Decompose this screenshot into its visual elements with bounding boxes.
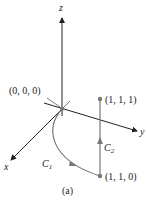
point-110 [98, 174, 102, 178]
curve-c2-label: C2 [104, 142, 115, 155]
x-axis-label: x [3, 161, 9, 172]
point-110-label: (1, 1, 0) [105, 171, 137, 183]
x-axis [11, 109, 62, 160]
point-origin-label: (0, 0, 0) [9, 85, 41, 97]
point-111-label: (1, 1, 1) [105, 94, 137, 106]
figure-caption: (a) [62, 185, 73, 197]
curve-c1-arrow-icon [69, 161, 77, 166]
y-axis-label: y [139, 126, 145, 137]
y-axis [44, 103, 137, 131]
path-diagram: z y x C1 C2 (0, 0, 0) (1, 1, 1) (1, 1, 0… [0, 0, 147, 202]
curve-c1-label: C1 [42, 158, 52, 171]
curve-c2-arrow-icon [97, 137, 103, 144]
point-origin [60, 107, 64, 111]
point-111 [98, 97, 102, 101]
z-axis-label: z [58, 2, 63, 13]
